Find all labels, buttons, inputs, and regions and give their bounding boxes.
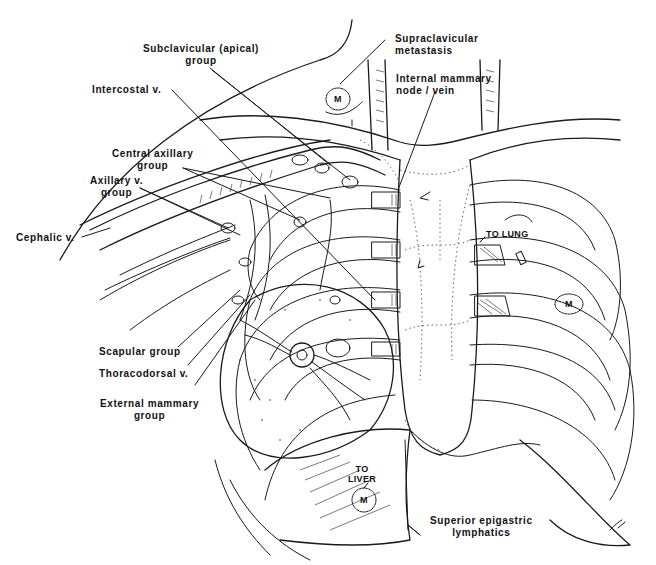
label-line: Supraclavicular bbox=[395, 33, 478, 45]
label-to-lung: TO LUNG bbox=[486, 228, 528, 240]
label-line: group bbox=[143, 55, 259, 67]
label-line: group bbox=[112, 160, 193, 172]
label-subclavicular-group: Subclavicular (apical) group bbox=[143, 43, 259, 67]
label-central-axillary-group: Central axillary group bbox=[112, 148, 193, 172]
label-axillary-v-group: Axillary v. group bbox=[90, 175, 143, 199]
label-line: group bbox=[90, 187, 143, 199]
flow-arrow bbox=[420, 192, 430, 200]
supraclavicular-metastasis bbox=[326, 88, 362, 126]
label-cephalic-v: Cephalic v. bbox=[16, 232, 75, 244]
leader-lines bbox=[82, 40, 435, 535]
label-line: Axillary v. bbox=[90, 175, 143, 187]
label-supraclavicular-metastasis: Supraclavicular metastasis bbox=[395, 33, 478, 57]
flow-arrow bbox=[418, 260, 424, 268]
label-line: node / vein bbox=[396, 85, 492, 97]
label-line: TO bbox=[348, 464, 376, 474]
label-intercostal-v: Intercostal v. bbox=[92, 84, 161, 96]
label-line: metastasis bbox=[395, 45, 478, 57]
breast bbox=[220, 284, 393, 458]
label-external-mammary-group: External mammary group bbox=[100, 398, 199, 422]
label-line: External mammary bbox=[100, 398, 199, 410]
metastasis-marker-lung: M bbox=[565, 298, 573, 310]
label-internal-mammary-node: Internal mammary node / vein bbox=[396, 73, 492, 97]
label-scapular-group: Scapular group bbox=[99, 346, 181, 358]
label-to-liver: TO LIVER bbox=[348, 464, 376, 484]
label-line: Subclavicular (apical) bbox=[143, 43, 259, 55]
label-line: Superior epigastric bbox=[430, 515, 533, 527]
sternum bbox=[397, 160, 478, 455]
label-line: lymphatics bbox=[430, 527, 533, 539]
label-line: Internal mammary bbox=[396, 73, 492, 85]
rib-cartilage-right bbox=[475, 245, 510, 316]
metastasis-marker-supraclavicular: M bbox=[334, 93, 342, 105]
metastasis-marker-liver: M bbox=[360, 494, 368, 506]
anatomical-diagram: Subclavicular (apical) group Intercostal… bbox=[0, 0, 656, 565]
breast-tumor bbox=[326, 339, 350, 357]
clavicles bbox=[200, 116, 620, 160]
label-line: LIVER bbox=[348, 474, 376, 484]
label-line: Central axillary bbox=[112, 148, 193, 160]
label-line: group bbox=[100, 410, 199, 422]
axillary-lymph-nodes bbox=[221, 155, 358, 304]
label-superior-epigastric-lymphatics: Superior epigastric lymphatics bbox=[430, 515, 533, 539]
label-thoracodorsal-v: Thoracodorsal v. bbox=[99, 368, 188, 380]
